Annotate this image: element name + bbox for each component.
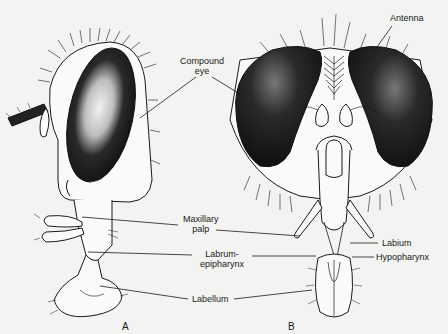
panel-a-head [6,28,160,317]
label-maxillary-palp-line1: Maxillary [183,214,219,224]
panel-b-head [230,14,432,317]
label-antenna: Antenna [390,13,424,23]
label-hypopharynx: Hypopharynx [376,252,429,262]
label-labellum: Labellum [192,294,229,304]
illustration [0,0,448,334]
label-labrum-epipharynx: Labrum- epipharynx [200,249,244,269]
panel-label-a: A [122,322,129,332]
panel-label-b: B [288,322,295,332]
label-maxillary-palp-line2: palp [183,224,219,234]
label-compound-eye: Compound eye [180,56,224,76]
label-labrum-line1: Labrum- [200,249,244,259]
label-compound-eye-line2: eye [180,66,224,76]
label-labium: Labium [382,238,412,248]
label-maxillary-palp: Maxillary palp [183,214,219,234]
label-compound-eye-line1: Compound [180,56,224,66]
label-labrum-line2: epipharynx [200,259,244,269]
fly-head-diagram: Antenna Compound eye Maxillary palp Labr… [0,0,448,334]
